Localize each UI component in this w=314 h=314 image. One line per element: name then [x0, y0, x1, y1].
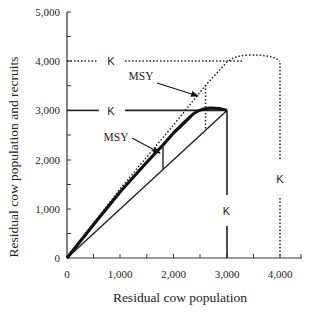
x-tick-4000: 4,000 — [268, 268, 293, 280]
chart: 5,000 4,000 3,000 2,000 1,000 0 0 1,000 … — [0, 0, 314, 314]
k-label-4000-v: K — [276, 173, 284, 185]
y-axis-title: Residual cow population and recruits — [6, 57, 21, 258]
y-axis — [67, 12, 71, 258]
y-tick-1000: 1,000 — [35, 203, 60, 215]
msy-label-lower: MSY — [104, 131, 130, 143]
y-tick-3000: 3,000 — [35, 104, 60, 116]
msy-arrow-upper — [157, 83, 198, 96]
msy-label-upper: MSY — [129, 70, 155, 82]
x-tick-3000: 3,000 — [215, 268, 240, 280]
y-tick-5000: 5,000 — [35, 6, 60, 18]
msy-arrow-lower — [132, 138, 160, 153]
recruitment-curve-k4000 — [67, 55, 280, 258]
x-tick-1000: 1,000 — [108, 268, 133, 280]
k-label-4000-h: K — [107, 55, 115, 67]
replacement-line-k3000 — [67, 110, 227, 258]
y-tick-2000: 2,000 — [35, 154, 60, 166]
k-label-3000-v: K — [223, 205, 231, 217]
y-tick-0: 0 — [55, 252, 61, 264]
y-tick-4000: 4,000 — [35, 55, 60, 67]
k-label-3000-h: K — [107, 105, 115, 117]
x-axis — [67, 254, 302, 258]
x-axis-title: Residual cow population — [113, 290, 247, 305]
x-tick-2000: 2,000 — [161, 268, 186, 280]
x-tick-0: 0 — [64, 268, 70, 280]
